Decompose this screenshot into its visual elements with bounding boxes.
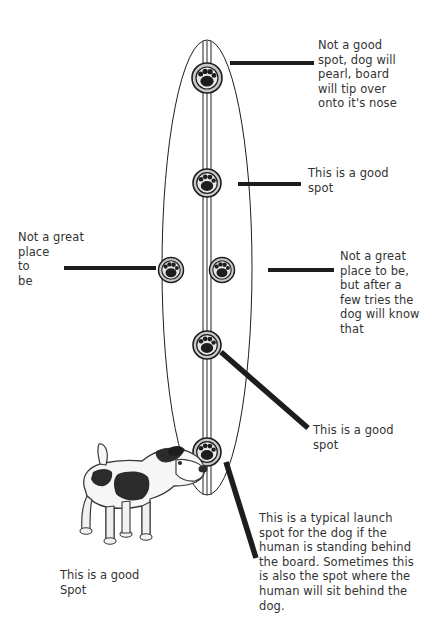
dog-caption: This is a good Spot (60, 568, 210, 598)
dog-illustration (0, 0, 444, 638)
diagram-canvas: Not a good spot, dog will pearl, board w… (0, 0, 444, 638)
